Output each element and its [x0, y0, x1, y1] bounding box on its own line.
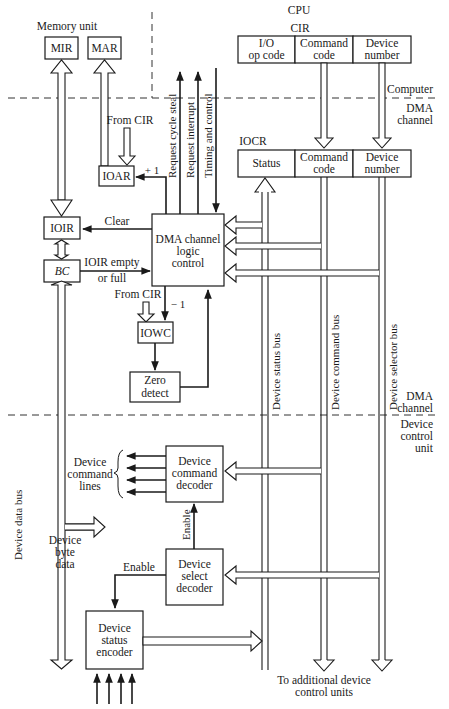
- svg-text:IOAR: IOAR: [102, 170, 130, 182]
- device-status-encoder: Device status encoder: [86, 611, 143, 669]
- svg-text:Zero: Zero: [144, 374, 166, 386]
- dma-channel-label-top: DMA: [406, 102, 434, 114]
- cir-title: CIR: [290, 22, 310, 34]
- iowc-register: IOWC: [138, 322, 173, 343]
- plus-one-label: + 1: [145, 164, 159, 176]
- clear-label: Clear: [105, 215, 130, 227]
- enable-label-1: Enable: [180, 509, 192, 540]
- svg-text:number: number: [364, 163, 399, 175]
- from-cir-label-1: From CIR: [107, 114, 154, 126]
- dma-channel-label-bottom: channel: [397, 114, 433, 126]
- bc-register: BC: [44, 260, 80, 282]
- enable-label-2: Enable: [123, 561, 155, 573]
- svg-text:decoder: decoder: [176, 479, 213, 491]
- from-cir-ioar-arrow: [119, 128, 135, 165]
- mar-address-arrow: [94, 60, 115, 166]
- device-data-bus-label: Device data bus: [12, 490, 24, 560]
- device-byte-data-label-3: data: [55, 558, 74, 570]
- svg-text:control: control: [172, 257, 205, 269]
- svg-text:Device: Device: [366, 151, 399, 163]
- from-cir-label-2: From CIR: [115, 288, 162, 300]
- mir-ioir-arrowhead: [51, 200, 72, 216]
- svg-text:code: code: [313, 163, 335, 175]
- from-cir-iowc-arrow: [138, 302, 154, 322]
- device-control-label-2: control: [400, 430, 433, 442]
- dma-channel2-label-bottom: channel: [397, 402, 433, 414]
- minus-one-label: − 1: [171, 298, 185, 310]
- svg-text:detect: detect: [141, 387, 169, 399]
- footer-line-1: To additional device: [277, 674, 371, 686]
- device-command-lines: [114, 450, 166, 498]
- svg-text:Command: Command: [300, 37, 348, 49]
- device-status-bus: [255, 178, 275, 670]
- svg-text:I/O: I/O: [259, 37, 274, 49]
- mir-register: MIR: [45, 37, 78, 59]
- svg-text:command: command: [172, 467, 218, 479]
- selector-bus-to-decoder-arrow: [225, 566, 379, 584]
- svg-text:op code: op code: [248, 49, 284, 62]
- device-control-label-3: unit: [415, 442, 434, 454]
- mar-register: MAR: [88, 37, 121, 59]
- device-status-bus-label: Device status bus: [270, 333, 282, 410]
- svg-text:Device: Device: [178, 558, 211, 570]
- cir-register: I/O op code Command code Device number: [238, 36, 411, 63]
- device-selector-bus: [372, 177, 392, 671]
- device-select-decoder: Device select decoder: [166, 549, 223, 605]
- device-command-lines-label-1: Device: [74, 456, 107, 468]
- ioir-empty-label: IOIR empty: [84, 256, 140, 269]
- bus-to-dma-logic-arrows: [225, 216, 379, 282]
- ioir-register: IOIR: [44, 217, 80, 239]
- svg-text:BC: BC: [55, 265, 70, 277]
- svg-text:MIR: MIR: [51, 42, 73, 54]
- request-interrupt-label: Request interrupt: [184, 102, 196, 178]
- svg-text:IOIR: IOIR: [50, 222, 74, 234]
- device-command-bus: [314, 177, 334, 671]
- svg-text:MAR: MAR: [91, 42, 118, 54]
- svg-text:status: status: [101, 634, 128, 646]
- cpu-label: CPU: [288, 4, 311, 16]
- dma-channel2-label-top: DMA: [406, 390, 434, 402]
- device-command-lines-label-3: lines: [79, 480, 101, 492]
- request-cycle-steal-label: Request cycle steal: [166, 94, 178, 178]
- increment-ioar-line: [136, 177, 166, 214]
- svg-text:DMA channel: DMA channel: [156, 233, 221, 245]
- svg-text:Device: Device: [98, 622, 131, 634]
- svg-text:encoder: encoder: [96, 646, 133, 658]
- device-number-transfer-arrow: [373, 63, 391, 148]
- svg-text:decoder: decoder: [176, 582, 213, 594]
- command-bus-to-decoder-arrow: [225, 462, 321, 480]
- device-selector-bus-label: Device selector bus: [387, 324, 399, 410]
- svg-text:Status: Status: [252, 157, 281, 169]
- dma-channel-logic-control: DMA channel logic control: [152, 214, 224, 286]
- iocr-register: Status Command code Device number: [238, 150, 411, 177]
- device-command-decoder: Device command decoder: [166, 446, 223, 502]
- device-byte-data-label-1: Device: [49, 534, 82, 546]
- dma-channel-diagram: Memory unit CPU Computer DMA channel DMA…: [0, 0, 449, 709]
- svg-text:Device: Device: [178, 455, 211, 467]
- device-command-lines-label-2: command: [67, 468, 113, 480]
- ioir-bc-double-arrow: [55, 240, 68, 259]
- svg-text:code: code: [313, 49, 335, 61]
- footer-line-2: control units: [295, 686, 353, 698]
- svg-text:IOWC: IOWC: [140, 327, 171, 339]
- memory-unit-label: Memory unit: [37, 20, 98, 33]
- svg-text:select: select: [181, 570, 208, 582]
- timing-control-label: Timing and control: [202, 93, 214, 178]
- svg-text:Device: Device: [366, 37, 399, 49]
- svg-text:Command: Command: [300, 151, 348, 163]
- enable-encoder-line: [115, 575, 166, 608]
- status-encoder-to-bus-arrow: [143, 631, 262, 651]
- device-command-bus-label: Device command bus: [329, 315, 341, 410]
- iocr-title: IOCR: [239, 135, 267, 147]
- status-input-lines: [97, 674, 132, 704]
- svg-text:number: number: [364, 49, 399, 61]
- zero-detect-block: Zero detect: [130, 372, 180, 402]
- or-full-label: or full: [98, 272, 126, 284]
- computer-label: Computer: [387, 83, 433, 96]
- device-control-label-1: Device: [400, 418, 433, 430]
- mir-data-bus-arrow: [51, 60, 72, 200]
- ioar-register: IOAR: [99, 166, 134, 186]
- command-code-transfer-arrow: [315, 63, 333, 148]
